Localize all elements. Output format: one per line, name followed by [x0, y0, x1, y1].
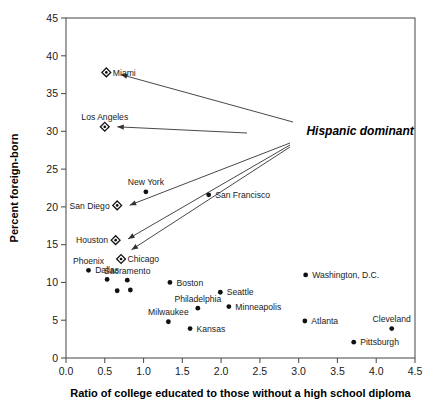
point-label: Philadelphia [174, 294, 221, 304]
data-point-circle[interactable] [105, 277, 110, 282]
x-axis-tick-label: 0.0 [59, 365, 74, 377]
x-axis-title: Ratio of college educated to those witho… [70, 387, 411, 399]
y-axis-tick-label: 0 [52, 352, 58, 364]
y-axis-tick-label: 45 [46, 12, 58, 24]
annotation-arrows [117, 74, 293, 250]
point-label: Atlanta [311, 316, 338, 326]
point-label: Pittsburgh [360, 337, 399, 347]
data-point-circle[interactable] [303, 272, 308, 277]
data-point-circle[interactable] [188, 326, 193, 331]
y-axis-tick-label: 15 [46, 238, 58, 250]
point-label: Sacramento [104, 266, 151, 276]
data-point-circle[interactable] [351, 340, 356, 345]
data-point-circle[interactable] [195, 306, 200, 311]
data-point-circle[interactable] [128, 288, 133, 293]
point-label: Houston [76, 235, 108, 245]
point-label: Los Angeles [81, 112, 128, 122]
data-point-diamond-center [114, 239, 117, 242]
data-point-diamond-center [120, 258, 123, 261]
data-point-circle[interactable] [226, 304, 231, 309]
data-point-diamond-center [116, 204, 119, 207]
data-point-circle[interactable] [168, 280, 173, 285]
x-axis-tick-label: 1.5 [175, 365, 190, 377]
point-label: Kansas [197, 324, 226, 334]
data-point-circle[interactable] [86, 268, 91, 273]
point-label: Minneapolis [235, 302, 281, 312]
point-label: Washington, D.C. [312, 270, 379, 280]
arrow-to-chicago-head [131, 244, 138, 250]
annotation-text-layer: Hispanic dominant [306, 124, 414, 138]
point-labels-layer: MiamiLos AngelesNew YorkSan FranciscoSan… [70, 68, 412, 348]
point-label: San Francisco [215, 190, 270, 200]
data-point-circle[interactable] [125, 278, 130, 283]
x-axis-tick-label: 2.5 [253, 365, 268, 377]
data-point-circle[interactable] [143, 189, 148, 194]
y-axis-tick-label: 40 [46, 50, 58, 62]
axis-titles-layer: Ratio of college educated to those witho… [8, 133, 412, 399]
data-point-circle[interactable] [166, 319, 171, 324]
annotation-hispanic-dominant: Hispanic dominant [306, 124, 414, 138]
point-label: Milwaukee [148, 307, 189, 317]
point-label: Miami [113, 68, 136, 78]
y-axis-tick-label: 30 [46, 125, 58, 137]
x-axis-tick-label: 3.0 [291, 365, 306, 377]
x-axis-tick-label: 4.0 [369, 365, 384, 377]
point-label: Cleveland [373, 314, 411, 324]
y-axis-tick-label: 20 [46, 201, 58, 213]
y-axis-tick-label: 5 [52, 314, 58, 326]
scatter-plot: 0510152025303540450.00.51.01.52.02.53.03… [0, 0, 431, 409]
y-axis-tick-label: 10 [46, 276, 58, 288]
x-axis-tick-label: 1.0 [136, 365, 151, 377]
data-point-diamond-center [103, 125, 106, 128]
x-axis-tick-label: 3.5 [330, 365, 345, 377]
x-axis-tick-label: 2.0 [214, 365, 229, 377]
x-axis-tick-label: 4.5 [408, 365, 423, 377]
arrow-to-los-angeles-head [117, 125, 124, 130]
arrow-to-los-angeles [117, 127, 247, 133]
point-label: Seattle [227, 287, 254, 297]
y-axis-tick-label: 25 [46, 163, 58, 175]
arrow-to-san-diego-head [130, 200, 137, 205]
data-point-circle[interactable] [115, 288, 120, 293]
y-axis-title: Percent foreign-born [8, 133, 20, 242]
y-axis-tick-label: 35 [46, 87, 58, 99]
point-label: Boston [176, 278, 203, 288]
arrow-to-houston-head [128, 233, 135, 239]
point-label: Chicago [128, 254, 160, 264]
arrow-to-miami [121, 75, 293, 122]
point-label: New York [128, 177, 165, 187]
x-axis-tick-label: 0.5 [97, 365, 112, 377]
data-point-diamond-center [105, 71, 108, 74]
data-point-circle[interactable] [389, 326, 394, 331]
chart-container: 0510152025303540450.00.51.01.52.02.53.03… [0, 0, 431, 409]
data-point-circle[interactable] [206, 192, 211, 197]
data-point-circle[interactable] [302, 319, 307, 324]
point-label: San Diego [70, 201, 110, 211]
